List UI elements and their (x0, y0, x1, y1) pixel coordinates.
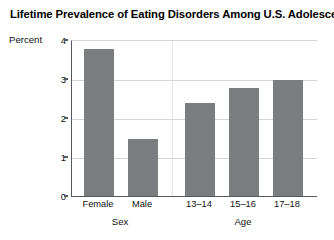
group-label-sex: Sex (112, 216, 129, 227)
y-tick-mark (64, 39, 68, 40)
y-tick-mark (64, 117, 68, 118)
group-label-age: Age (234, 216, 251, 227)
chart-figure: Lifetime Prevalence of Eating Disorders … (0, 0, 334, 240)
bar-male (128, 139, 158, 198)
title-divider (8, 25, 328, 26)
bar-17-18 (273, 80, 303, 197)
bar-13-14 (185, 103, 215, 197)
x-axis-group-labels: SexAge (71, 216, 317, 230)
category-label: 13–14 (186, 199, 212, 209)
plot-area (71, 40, 317, 197)
x-axis-category-labels: FemaleMale13–1415–1617–18 (71, 199, 317, 213)
group-divider (172, 41, 173, 197)
category-label: Male (132, 199, 152, 209)
y-tick-mark (64, 156, 68, 157)
y-tick-mark (64, 195, 68, 196)
category-label: Female (82, 199, 113, 209)
category-label: 15–16 (230, 199, 256, 209)
y-tick-mark (64, 78, 68, 79)
y-axis-label: Percent (9, 34, 42, 45)
chart-title: Lifetime Prevalence of Eating Disorders … (10, 8, 328, 20)
bar-female (84, 49, 114, 197)
bar-15-16 (229, 88, 259, 197)
category-label: 17–18 (274, 199, 300, 209)
x-axis-line (71, 196, 317, 197)
y-axis-tick-labels: 43210 (46, 40, 66, 196)
